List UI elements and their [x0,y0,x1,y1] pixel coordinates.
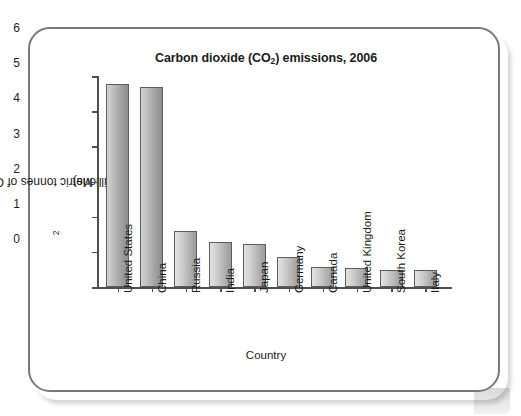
y-axis-tick-label: 3 [0,127,20,141]
x-axis-tick-label-text: United Kingdom [361,211,373,293]
chart-title: Carbon dioxide (CO2) emissions, 2006 [30,51,502,65]
y-axis-tick-label: 6 [0,21,20,35]
y-axis-tick [92,111,97,113]
x-axis-tick-label-text: China [156,263,168,293]
x-axis-tick-label-text: Germany [293,246,305,293]
y-axis-tick-labels: 6543210 [0,29,20,240]
y-axis-tick-label: 2 [0,162,20,176]
bar [140,87,163,287]
y-axis-tick-label: 0 [0,232,20,246]
y-axis-tick [92,146,97,148]
y-axis-tick [92,182,97,184]
x-axis-tick-label-text: United States [122,224,134,293]
x-axis-tick-label-text: Canada [327,253,339,293]
x-axis-tick-label-text: India [224,268,236,293]
chart-title-tail: ) emissions, 2006 [275,51,377,65]
y-axis-tick [92,76,97,78]
plot-area [97,76,465,287]
y-axis-tick-label: 5 [0,56,20,70]
x-axis-tick-label-text: Japan [258,262,270,293]
figure-frame: Carbon dioxide (CO2) emissions, 2006 Met… [28,27,500,392]
x-axis-title: Country [30,349,502,361]
y-axis-tick-label: 4 [0,91,20,105]
y-axis-tick [92,252,97,254]
chart-title-main: Carbon dioxide (CO [155,51,271,65]
x-axis-tick-label-text: South Korea [395,229,407,293]
y-axis-tick [92,217,97,219]
y-axis-title: Metric tonnes of CO2 (millions) [44,76,62,287]
y-axis-tick-label: 1 [0,197,20,211]
x-axis-tick-label-text: Italy [429,272,441,293]
chart-title-subscript: 2 [271,56,276,66]
y-axis-line [97,76,99,287]
y-axis-title-subscript: 2 [51,230,61,235]
y-axis-tick [92,287,97,289]
x-axis-tick-label-text: Russia [190,258,202,293]
